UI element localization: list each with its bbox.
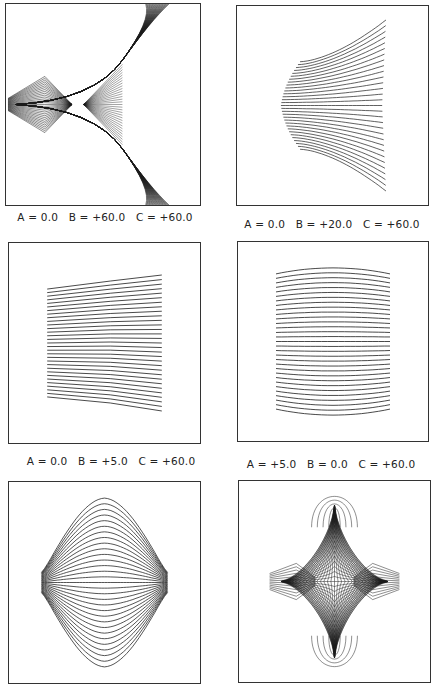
astroid-star-plot: [239, 481, 430, 682]
panel-caption-3: A = 0.0 B = +5.0 C = +60.0: [27, 455, 196, 467]
barrel-lines-plot: [238, 242, 428, 441]
fan-right-plot: [237, 6, 428, 205]
plot-panel-6: [238, 480, 431, 683]
panel-caption-2: A = 0.0 B = +20.0 C = +60.0: [244, 218, 419, 230]
plot-panel-4: [237, 241, 429, 442]
plot-panel-1: [5, 3, 201, 206]
cusp-three-branch-plot: [6, 4, 200, 205]
slanted-lines-plot: [9, 243, 200, 443]
diamond-plot: [9, 482, 200, 683]
plot-panel-2: [236, 5, 429, 206]
panel-caption-1: A = 0.0 B = +60.0 C = +60.0: [17, 211, 192, 223]
plot-panel-3: [8, 242, 201, 444]
panel-caption-4: A = +5.0 B = 0.0 C = +60.0: [247, 458, 416, 470]
plot-panel-5: [8, 481, 201, 684]
